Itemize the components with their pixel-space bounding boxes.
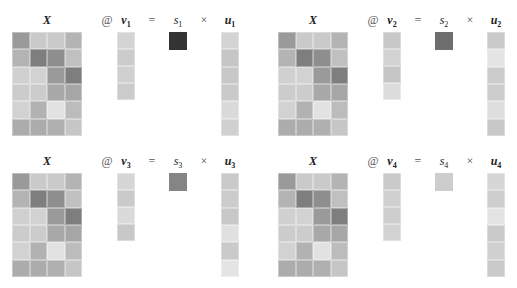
v-cell xyxy=(117,32,135,49)
x-cell xyxy=(65,101,83,118)
x-cell xyxy=(278,119,296,136)
x-label: X xyxy=(43,10,51,30)
v-cell xyxy=(117,49,135,66)
u-cell xyxy=(487,67,505,84)
u-cell xyxy=(487,225,505,242)
x-cell xyxy=(30,32,48,49)
times-operator: × xyxy=(201,10,208,30)
x-cell xyxy=(296,67,314,84)
u-subscript: 3 xyxy=(231,161,235,170)
x-cell xyxy=(65,67,83,84)
v-label: v1 xyxy=(121,10,130,30)
v-vector xyxy=(383,173,401,241)
equals-operator: = xyxy=(415,10,422,30)
x-cell xyxy=(278,260,296,277)
x-cell xyxy=(313,67,331,84)
x-cell xyxy=(30,84,48,101)
x-cell xyxy=(30,208,48,225)
x-cell xyxy=(278,67,296,84)
u-cell xyxy=(487,260,505,277)
x-matrix xyxy=(278,32,348,136)
u-cell xyxy=(487,32,505,49)
x-cell xyxy=(331,190,349,207)
x-cell xyxy=(296,225,314,242)
x-cell xyxy=(65,260,83,277)
v-label: v3 xyxy=(121,151,130,171)
u-cell xyxy=(221,190,239,207)
v-cell xyxy=(383,207,401,224)
x-cell xyxy=(47,242,65,259)
u-label: u3 xyxy=(225,151,236,171)
u-label-text: u xyxy=(491,154,498,168)
x-cell xyxy=(331,242,349,259)
x-cell xyxy=(296,242,314,259)
x-cell xyxy=(296,173,314,190)
x-cell xyxy=(12,173,30,190)
x-cell xyxy=(12,208,30,225)
times-operator: × xyxy=(201,151,208,171)
x-cell xyxy=(331,208,349,225)
svd-panel-1: X @ v1 = s1 × u1 xyxy=(0,10,258,154)
x-cell xyxy=(278,101,296,118)
x-cell xyxy=(313,173,331,190)
svd-panel-2: X @ v2 = s2 × u2 xyxy=(266,10,517,154)
x-cell xyxy=(313,260,331,277)
svd-panel-4: X @ v4 = s4 × u4 xyxy=(266,151,517,288)
x-cell xyxy=(296,260,314,277)
x-cell xyxy=(313,49,331,66)
label-text: X xyxy=(43,154,51,168)
x-cell xyxy=(12,101,30,118)
s-subscript: 4 xyxy=(444,161,448,170)
x-cell xyxy=(65,242,83,259)
label-text: @ xyxy=(367,13,378,27)
u-label-text: u xyxy=(225,154,232,168)
x-cell xyxy=(313,225,331,242)
label-text: @ xyxy=(101,13,112,27)
x-cell xyxy=(331,101,349,118)
x-cell xyxy=(30,119,48,136)
x-cell xyxy=(47,49,65,66)
matmul-operator: @ xyxy=(101,10,112,30)
u-label-text: u xyxy=(225,13,232,27)
x-cell xyxy=(30,173,48,190)
x-cell xyxy=(47,67,65,84)
x-cell xyxy=(331,67,349,84)
matmul-operator: @ xyxy=(101,151,112,171)
x-cell xyxy=(331,260,349,277)
x-label: X xyxy=(309,10,317,30)
label-text: @ xyxy=(101,154,112,168)
x-cell xyxy=(12,260,30,277)
v-label: v2 xyxy=(387,10,396,30)
u-subscript: 2 xyxy=(497,20,501,29)
u-label: u1 xyxy=(225,10,236,30)
u-cell xyxy=(221,67,239,84)
x-cell xyxy=(12,67,30,84)
x-label: X xyxy=(43,151,51,171)
u-cell xyxy=(221,119,239,136)
x-label: X xyxy=(309,151,317,171)
x-cell xyxy=(12,84,30,101)
s-scalar xyxy=(169,173,187,191)
x-cell xyxy=(12,49,30,66)
label-text: × xyxy=(201,154,208,168)
s-subscript: 2 xyxy=(444,20,448,29)
x-matrix xyxy=(12,32,82,136)
x-cell xyxy=(47,260,65,277)
x-cell xyxy=(331,225,349,242)
u-cell xyxy=(221,32,239,49)
x-cell xyxy=(47,190,65,207)
u-cell xyxy=(221,260,239,277)
x-matrix xyxy=(12,173,82,277)
x-cell xyxy=(47,173,65,190)
s-label: s4 xyxy=(440,151,449,171)
v-cell xyxy=(383,83,401,100)
u-cell xyxy=(221,101,239,118)
v-cell xyxy=(383,224,401,241)
x-cell xyxy=(313,190,331,207)
v-subscript: 3 xyxy=(127,161,131,170)
x-cell xyxy=(313,101,331,118)
u-cell xyxy=(221,49,239,66)
x-cell xyxy=(30,260,48,277)
x-cell xyxy=(296,119,314,136)
x-cell xyxy=(313,242,331,259)
